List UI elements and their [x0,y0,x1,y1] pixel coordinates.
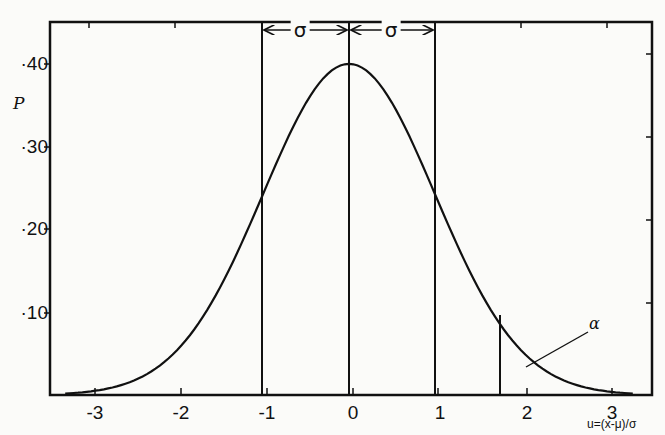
y-tick-label-40: ·40 [21,53,48,75]
alpha-label: α [589,314,600,333]
sigma-label-left: σ [291,18,310,42]
x-tick-label-minus-3: -3 [87,402,104,424]
x-tick-label-minus-1: -1 [259,402,276,424]
x-axis-title: u=(x-μ)/σ [587,417,636,431]
y-axis-title: P [13,93,24,113]
x-tick-label-0: 0 [348,402,359,424]
y-tick-label-10: ·10 [21,302,48,324]
y-tick-label-30: ·30 [21,136,48,158]
y-tick-label-20: ·20 [21,218,48,240]
x-tick-label-minus-2: -2 [173,402,190,424]
plot-frame [50,22,652,395]
x-tick-label-1: 1 [435,402,446,424]
sigma-label-right: σ [382,18,401,42]
normal-distribution-chart [0,0,665,435]
x-tick-label-2: 2 [522,402,533,424]
alpha-leader-line [526,332,588,367]
sigma-lines [262,22,435,395]
